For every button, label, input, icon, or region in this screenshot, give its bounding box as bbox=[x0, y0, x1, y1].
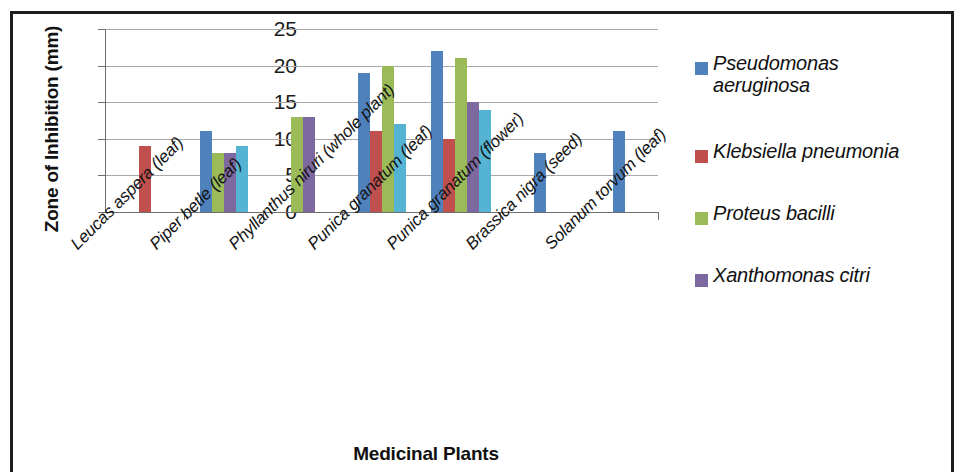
bar bbox=[139, 146, 151, 212]
legend-color-swatch bbox=[695, 62, 708, 75]
x-axis-separator-tick bbox=[500, 212, 501, 220]
bar bbox=[394, 124, 406, 212]
bar-group bbox=[263, 29, 342, 212]
x-axis-separator-tick bbox=[342, 212, 343, 220]
legend-item[interactable]: Proteus bacilli bbox=[695, 202, 835, 225]
y-axis-tick bbox=[98, 212, 106, 213]
bar bbox=[212, 153, 224, 212]
bar-group bbox=[184, 29, 263, 212]
bar-group bbox=[421, 29, 500, 212]
x-axis-separator-tick bbox=[184, 212, 185, 220]
x-axis-separator-tick bbox=[579, 212, 580, 220]
x-axis-separator-tick bbox=[263, 212, 264, 220]
x-axis-title: Medicinal Plants bbox=[276, 443, 576, 465]
bar-group bbox=[105, 29, 184, 212]
plot-area bbox=[105, 29, 658, 212]
bar bbox=[431, 51, 443, 212]
gridline bbox=[105, 212, 658, 213]
bar bbox=[534, 153, 546, 212]
bar bbox=[370, 131, 382, 212]
bar bbox=[236, 146, 248, 212]
bar-group bbox=[500, 29, 579, 212]
bar bbox=[303, 117, 315, 212]
bar bbox=[224, 153, 236, 212]
bar bbox=[613, 131, 625, 212]
chart-page: Zone of Inhibition (mm) 2520151050 Leuca… bbox=[0, 0, 959, 474]
legend-item[interactable]: Klebsiella pneumonia bbox=[695, 140, 899, 163]
bar bbox=[200, 131, 212, 212]
bar bbox=[443, 139, 455, 212]
bar-group bbox=[342, 29, 421, 212]
legend-item[interactable]: Xanthomonas citri bbox=[695, 264, 870, 287]
legend-label: Proteus bacilli bbox=[713, 202, 835, 224]
x-axis-separator-tick bbox=[658, 212, 659, 220]
y-axis-title: Zone of Inhibition (mm) bbox=[41, 14, 63, 244]
bar bbox=[291, 117, 303, 212]
legend-color-swatch bbox=[695, 212, 708, 225]
legend-color-swatch bbox=[695, 274, 708, 287]
legend-color-swatch bbox=[695, 150, 708, 163]
bar bbox=[467, 102, 479, 212]
legend-label: Pseudomonasaeruginosa bbox=[713, 52, 839, 97]
bar bbox=[455, 58, 467, 212]
x-axis-separator-tick bbox=[421, 212, 422, 220]
bar bbox=[358, 73, 370, 212]
bar-group bbox=[579, 29, 658, 212]
bar bbox=[479, 110, 491, 212]
legend-label: Xanthomonas citri bbox=[713, 264, 870, 286]
bar bbox=[382, 66, 394, 212]
legend-label: Klebsiella pneumonia bbox=[713, 140, 899, 162]
legend-item[interactable]: Pseudomonasaeruginosa bbox=[695, 52, 839, 97]
